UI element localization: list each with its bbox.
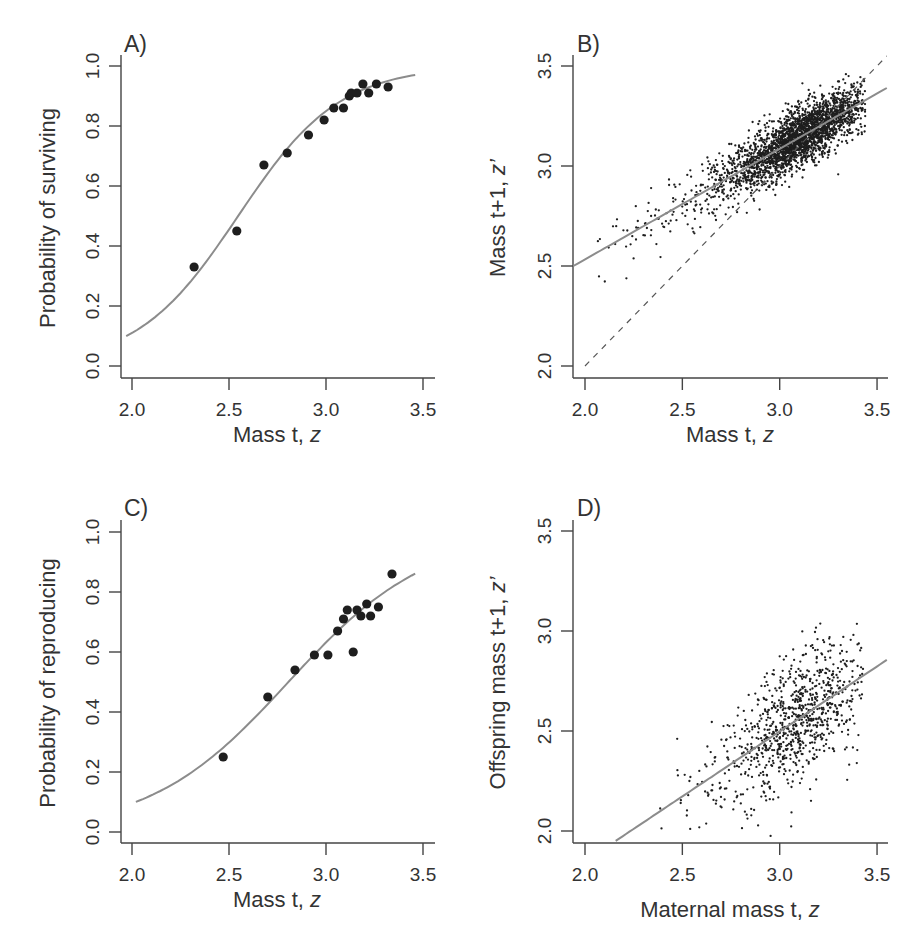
y-tick-label: 2.0 (534, 353, 555, 379)
x-tick-label: 3.0 (766, 864, 792, 885)
x-tick-label: 2.5 (669, 864, 695, 885)
data-point (343, 605, 352, 614)
panel-c-plot-area: 2.02.53.03.50.00.20.40.60.81.0 (82, 519, 436, 885)
y-tick-label: 0.6 (82, 639, 103, 665)
data-point (320, 115, 329, 124)
panel-a-x-axis-title: Mass t, z (233, 422, 321, 447)
x-tick-label: 2.5 (216, 399, 242, 420)
panel-d-y-axis-title: Offspring mass t+1, z’ (485, 575, 510, 789)
panel-a-plot-area: 2.02.53.03.50.00.20.40.60.81.0 (82, 53, 436, 420)
y-tick-label: 0.0 (82, 353, 103, 379)
data-point (339, 103, 348, 112)
data-point (232, 226, 241, 235)
data-point (259, 160, 268, 169)
x-tick-label: 3.5 (864, 399, 890, 420)
x-tick-label: 2.5 (216, 864, 242, 885)
data-point (219, 752, 228, 761)
panel-c-x-axis-title: Mass t, z (233, 887, 321, 912)
y-tick-label: 1.0 (82, 519, 103, 545)
data-point (190, 262, 199, 271)
y-tick-label: 2.0 (534, 818, 555, 844)
y-tick-label: 0.4 (82, 698, 103, 725)
fitted-curve (616, 660, 887, 841)
y-tick-label: 2.5 (534, 718, 555, 744)
panel-b-growth: 2.02.53.03.52.02.53.03.5 B) Mass t, z Ma… (485, 31, 890, 447)
y-tick-label: 3.5 (534, 518, 555, 544)
x-tick-label: 2.0 (572, 399, 598, 420)
scatter-points (597, 73, 867, 283)
x-tick-label: 3.5 (410, 399, 436, 420)
panel-b-x-axis-title: Mass t, z (686, 422, 774, 447)
panel-d-x-axis-title: Maternal mass t, z (640, 897, 820, 922)
data-point (387, 569, 396, 578)
x-tick-label: 3.5 (410, 864, 436, 885)
data-point (304, 130, 313, 139)
figure: 2.02.53.03.50.00.20.40.60.81.0 A) Mass t… (0, 0, 916, 950)
y-tick-label: 0.8 (82, 579, 103, 605)
panel-b-plot-area: 2.02.53.03.52.02.53.03.5 (534, 53, 890, 420)
y-tick-label: 3.5 (534, 53, 555, 79)
binned-data-points (219, 569, 397, 761)
panel-d-letter: D) (577, 495, 601, 521)
data-point (352, 88, 361, 97)
y-tick-label: 0.0 (82, 819, 103, 845)
x-tick-label: 2.5 (669, 399, 695, 420)
fitted-curve (126, 75, 415, 336)
panel-d-plot-area: 2.02.53.03.52.02.53.03.5 (534, 518, 890, 885)
data-point (362, 599, 371, 608)
data-point (384, 82, 393, 91)
data-point (366, 611, 375, 620)
data-point (339, 614, 348, 623)
scatter-points (659, 622, 864, 837)
data-point (323, 650, 332, 659)
panel-c-y-axis-title: Probability of reproducing (35, 558, 60, 807)
fitted-curve (136, 574, 415, 802)
y-tick-label: 0.8 (82, 113, 103, 139)
x-tick-label: 3.5 (864, 864, 890, 885)
y-tick-label: 3.0 (534, 153, 555, 179)
data-point (358, 79, 367, 88)
panel-c-letter: C) (124, 495, 148, 521)
panel-d-offspring: 2.02.53.03.52.02.53.03.5 D) Maternal mas… (485, 495, 890, 922)
panel-b-letter: B) (577, 31, 600, 57)
x-tick-label: 2.0 (119, 399, 145, 420)
panel-a-survival: 2.02.53.03.50.00.20.40.60.81.0 A) Mass t… (35, 31, 436, 447)
data-point (310, 650, 319, 659)
panel-c-reproduction: 2.02.53.03.50.00.20.40.60.81.0 C) Mass t… (35, 495, 436, 912)
y-tick-label: 3.0 (534, 618, 555, 644)
panel-b-y-axis-title: Mass t+1, z’ (485, 158, 510, 277)
panel-a-letter: A) (124, 31, 147, 57)
data-point (372, 79, 381, 88)
x-tick-label: 2.0 (119, 864, 145, 885)
x-tick-label: 2.0 (572, 864, 598, 885)
data-point (374, 602, 383, 611)
data-point (283, 148, 292, 157)
data-point (364, 88, 373, 97)
x-tick-label: 3.0 (313, 399, 339, 420)
data-point (356, 611, 365, 620)
fitted-curve (573, 88, 887, 266)
data-point (290, 665, 299, 674)
data-point (349, 647, 358, 656)
x-tick-label: 3.0 (313, 864, 339, 885)
y-tick-label: 1.0 (82, 53, 103, 79)
data-point (329, 103, 338, 112)
y-tick-label: 2.5 (534, 253, 555, 279)
y-tick-label: 0.2 (82, 759, 103, 785)
data-point (333, 626, 342, 635)
y-tick-label: 0.2 (82, 293, 103, 319)
y-tick-label: 0.6 (82, 173, 103, 199)
panel-a-y-axis-title: Probability of surviving (35, 108, 60, 328)
data-point (263, 692, 272, 701)
y-tick-label: 0.4 (82, 232, 103, 259)
x-tick-label: 3.0 (766, 399, 792, 420)
